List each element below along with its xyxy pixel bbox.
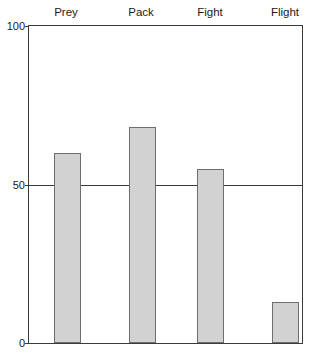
category-label-prey: Prey [54,5,78,19]
bar-chart: Prey Pack Fight Flight 100 50 0 [0,0,320,356]
y-tickmark-0 [25,343,29,344]
y-tick-label-100: 100 [7,21,25,32]
y-tick-label-50: 50 [13,179,25,190]
bar-flight [272,302,299,343]
plot-area: 100 50 0 [28,25,303,344]
bar-prey [54,153,81,343]
y-tickmark-100 [25,26,29,27]
category-label-pack: Pack [128,5,154,19]
category-label-fight: Fight [197,5,223,19]
bar-fight [197,169,224,343]
category-label-flight: Flight [271,5,299,19]
bar-pack [129,127,156,343]
